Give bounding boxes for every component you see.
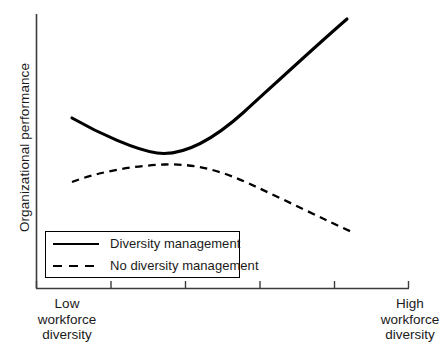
x-axis-label-high-line3: diversity: [355, 327, 444, 343]
x-axis-label-high-line2: workforce: [355, 312, 444, 328]
x-axis-label-high: High workforce diversity: [355, 296, 444, 343]
x-axis-label-low-line2: workforce: [12, 312, 122, 328]
y-axis-label: Organizational performance: [17, 38, 32, 258]
legend-item-no-diversity-management: No diversity management: [46, 254, 239, 277]
legend-item-diversity-management: Diversity management: [46, 232, 239, 255]
x-axis-label-low: Low workforce diversity: [12, 296, 122, 343]
legend-label-diversity-management: Diversity management: [110, 236, 240, 251]
series-line-diversity-management: [72, 19, 347, 153]
x-axis-label-low-line3: diversity: [12, 327, 122, 343]
chart-legend: Diversity management No diversity manage…: [45, 231, 240, 278]
x-axis-ticks: [37, 281, 409, 288]
x-axis-label-low-line1: Low: [12, 296, 122, 312]
legend-swatch-dashed-line-icon: [52, 260, 104, 272]
legend-label-no-diversity-management: No diversity management: [110, 258, 259, 273]
series-line-no-diversity-management: [72, 164, 352, 232]
x-axis-label-high-line1: High: [355, 296, 444, 312]
legend-swatch-solid-line-icon: [52, 238, 104, 250]
